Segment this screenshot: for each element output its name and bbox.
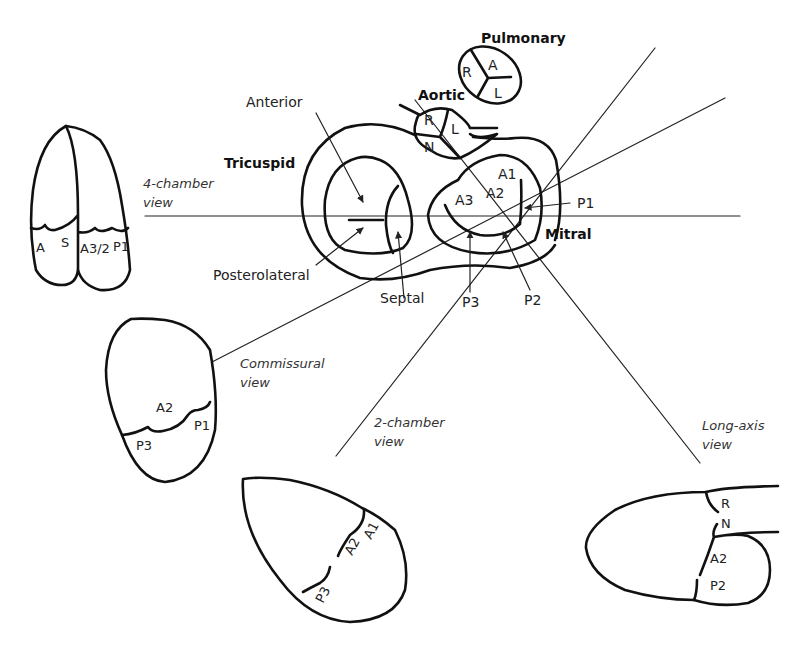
two-chamber-label: 2-chamber xyxy=(374,415,446,430)
mitral-a3: A3 xyxy=(455,192,473,208)
two-chamber-seg-a2: A2 xyxy=(341,535,362,557)
aortic-cusp-n: N xyxy=(424,139,434,155)
two-chamber-seg-a1: A1 xyxy=(360,519,381,541)
commissural-label: Commissural xyxy=(240,356,325,371)
aortic-cusp-l: L xyxy=(451,121,459,137)
commissural-label-view: view xyxy=(240,375,270,390)
tricuspid-title: Tricuspid xyxy=(224,155,295,171)
long-axis-seg-a2: A2 xyxy=(710,551,727,566)
pulmonary-valve: Pulmonary R A L xyxy=(448,30,566,115)
four-chamber-seg-p1: P1 xyxy=(113,239,129,254)
aortic-cusp-r: R xyxy=(424,112,434,128)
tricuspid-anterior-label: Anterior xyxy=(246,94,303,110)
long-axis-seg-r: R xyxy=(721,496,730,511)
two-chamber-seg-p3: P3 xyxy=(312,584,333,605)
aortic-title: Aortic xyxy=(418,87,465,103)
mitral-p3: P3 xyxy=(462,294,479,310)
mitral-p1: P1 xyxy=(577,195,594,211)
diagram-canvas: Pulmonary R A L Aortic R L N Tricuspid A… xyxy=(0,0,801,648)
long-axis-seg-n: N xyxy=(721,516,731,531)
commissural-seg-p1: P1 xyxy=(194,418,210,433)
four-chamber-label-view: view xyxy=(143,195,173,210)
four-chamber-seg-a32: A3/2 xyxy=(80,241,110,256)
tricuspid-septal-label: Septal xyxy=(380,290,424,306)
commissural-view: A2 P1 P3 Commissural view xyxy=(106,319,325,482)
echo-valve-diagram: Pulmonary R A L Aortic R L N Tricuspid A… xyxy=(0,0,801,648)
four-chamber-seg-a: A xyxy=(36,240,45,255)
pulmonary-cusp-r: R xyxy=(462,64,472,80)
pulmonary-cusp-l: L xyxy=(494,85,502,101)
mitral-title: Mitral xyxy=(545,226,592,242)
aortic-valve: Aortic R L N xyxy=(400,87,497,158)
pulmonary-title: Pulmonary xyxy=(481,30,566,46)
long-axis-label-view: view xyxy=(702,437,732,452)
four-chamber-label: 4-chamber xyxy=(143,176,215,191)
commissural-seg-p3: P3 xyxy=(136,438,152,453)
four-chamber-seg-s: S xyxy=(61,235,69,250)
long-axis-label: Long-axis xyxy=(702,418,765,433)
mitral-a1: A1 xyxy=(498,166,516,182)
mitral-a2: A2 xyxy=(486,185,504,201)
four-chamber-view: A S A3/2 P1 4-chamber view xyxy=(31,126,215,290)
pulmonary-cusp-a: A xyxy=(488,57,498,73)
mitral-p2: P2 xyxy=(524,292,541,308)
commissural-seg-a2: A2 xyxy=(156,400,173,415)
long-axis-seg-p2: P2 xyxy=(710,578,726,593)
two-chamber-label-view: view xyxy=(374,434,404,449)
view-lines xyxy=(145,48,740,463)
long-axis-view: R N A2 P2 Long-axis view xyxy=(586,418,778,605)
tricuspid-posterolateral-label: Posterolateral xyxy=(213,267,310,283)
